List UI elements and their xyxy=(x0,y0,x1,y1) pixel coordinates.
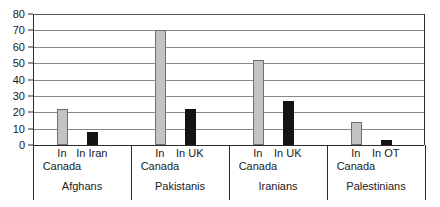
group-label-iranians: Iranians xyxy=(229,180,327,193)
y-tick-label-70: 70 xyxy=(13,25,25,36)
y-axis: 80706050403020100 xyxy=(0,0,33,160)
gridline-80 xyxy=(34,14,424,15)
y-tick-label-60: 60 xyxy=(13,41,25,52)
bar-pakistanis-0 xyxy=(155,30,166,145)
separator-4 xyxy=(425,145,426,200)
separator-1 xyxy=(131,145,132,200)
plot-area xyxy=(33,14,425,145)
y-tick-label-80: 80 xyxy=(13,9,25,20)
y-tick-label-40: 40 xyxy=(13,74,25,85)
y-tick-label-30: 30 xyxy=(13,90,25,101)
y-tick-label-20: 20 xyxy=(13,107,25,118)
bar-palestinians-0 xyxy=(351,122,362,145)
gridline-30 xyxy=(34,96,424,97)
y-tick-label-0: 0 xyxy=(19,140,25,151)
bar-afghans-0 xyxy=(57,109,68,145)
category-label-iranians-1: In UK xyxy=(254,147,322,160)
category-label-afghans-1: In Iran xyxy=(58,147,126,160)
y-tick-label-10: 10 xyxy=(13,123,25,134)
gridline-60 xyxy=(34,47,424,48)
gridline-20 xyxy=(34,112,424,113)
gridline-10 xyxy=(34,129,424,130)
separator-0 xyxy=(33,145,34,200)
category-label-pakistanis-1: In UK xyxy=(156,147,224,160)
bar-palestinians-1 xyxy=(381,140,392,145)
gridline-70 xyxy=(34,30,424,31)
group-label-afghans: Afghans xyxy=(33,180,131,193)
group-label-pakistanis: Pakistanis xyxy=(131,180,229,193)
bar-chart: 80706050403020100 In CanadaIn IranIn Can… xyxy=(0,0,440,207)
bar-afghans-1 xyxy=(87,132,98,145)
gridline-40 xyxy=(34,80,424,81)
group-label-palestinians: Palestinians xyxy=(327,180,425,193)
bar-iranians-1 xyxy=(283,101,294,145)
y-tick-label-50: 50 xyxy=(13,58,25,69)
separator-2 xyxy=(229,145,230,200)
bar-pakistanis-1 xyxy=(185,109,196,145)
category-label-palestinians-1: In OT xyxy=(352,147,420,160)
gridline-50 xyxy=(34,63,424,64)
separator-3 xyxy=(327,145,328,200)
bar-iranians-0 xyxy=(253,60,264,145)
